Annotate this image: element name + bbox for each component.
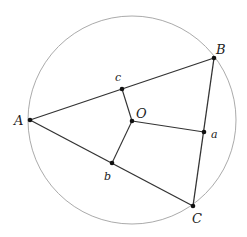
vertex-points xyxy=(28,56,217,209)
label-O: O xyxy=(136,106,147,121)
label-b: b xyxy=(104,170,111,183)
label-B: B xyxy=(215,42,226,57)
point-A xyxy=(28,118,33,123)
geometry-diagram: A B C O a b c xyxy=(0,0,247,237)
point-C xyxy=(191,204,196,209)
point-O xyxy=(130,119,135,124)
label-C: C xyxy=(192,211,202,226)
perpendiculars-from-o xyxy=(112,89,204,163)
point-a xyxy=(202,130,207,135)
label-c: c xyxy=(115,71,121,84)
label-a: a xyxy=(211,128,218,141)
segment-o-b xyxy=(112,121,132,163)
segment-o-a xyxy=(132,121,204,132)
segment-o-c xyxy=(122,89,132,121)
label-A: A xyxy=(13,113,23,128)
point-b xyxy=(110,161,115,166)
point-c xyxy=(120,87,125,92)
triangle-abc xyxy=(30,58,214,206)
